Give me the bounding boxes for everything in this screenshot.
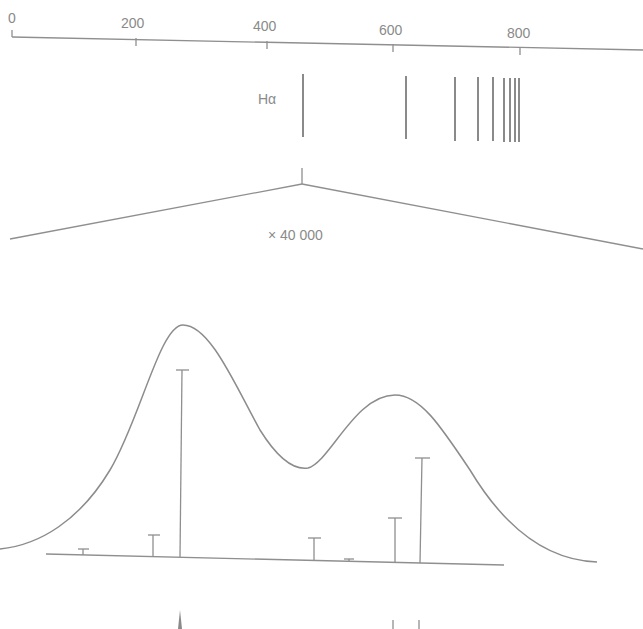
magnification-wedge: × 40 000 bbox=[10, 168, 643, 249]
magnification-label: × 40 000 bbox=[268, 227, 323, 243]
tick-label-200: 200 bbox=[121, 15, 145, 31]
tick-label-0: 0 bbox=[8, 10, 16, 26]
h-alpha-label: Hα bbox=[258, 91, 276, 107]
wavelength-axis: 0 200 400 600 800 bbox=[8, 10, 643, 55]
tick-label-800: 800 bbox=[507, 25, 531, 41]
spectral-lines: Hα bbox=[258, 74, 519, 142]
tick-label-400: 400 bbox=[253, 18, 277, 34]
balmer-spectrum-figure: 0 200 400 600 800 Hα × 40 000 bbox=[0, 0, 643, 629]
tick-label-600: 600 bbox=[379, 22, 403, 38]
envelope-curve bbox=[0, 325, 597, 562]
lower-profile-fragment bbox=[178, 610, 419, 629]
fine-structure-components bbox=[46, 370, 504, 565]
